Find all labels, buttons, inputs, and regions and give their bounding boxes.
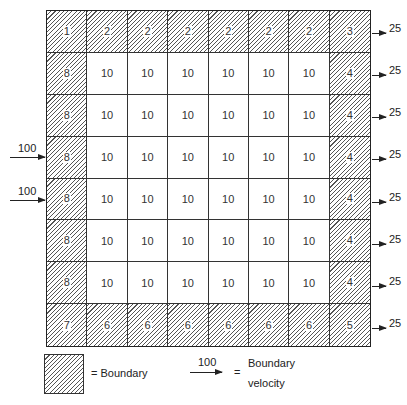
interior-cell: 10 [168, 220, 208, 262]
outflow-arrow-icon [372, 328, 386, 329]
cell-value: 10 [101, 67, 113, 79]
cell-value: 4 [346, 68, 354, 79]
interior-cell: 10 [128, 220, 168, 262]
boundary-cell: 8 [47, 220, 87, 262]
cell-value: 8 [63, 193, 71, 204]
cell-value: 10 [182, 277, 194, 289]
cell-value: 10 [101, 193, 113, 205]
interior-cell: 10 [289, 95, 329, 137]
cell-value: 4 [346, 235, 354, 246]
cell-value: 10 [101, 235, 113, 247]
interior-cell: 10 [128, 262, 168, 304]
cell-value: 2 [224, 26, 232, 37]
interior-cell: 10 [249, 53, 289, 95]
cell-value: 10 [222, 151, 234, 163]
cell-value: 7 [63, 320, 71, 331]
cell-value: 10 [141, 277, 153, 289]
interior-cell: 10 [249, 220, 289, 262]
cell-value: 10 [141, 151, 153, 163]
inflow-velocity-label: 100 [18, 142, 36, 154]
interior-cell: 10 [168, 95, 208, 137]
interior-cell: 10 [289, 179, 329, 221]
cell-value: 2 [305, 26, 313, 37]
cell-value: 10 [222, 193, 234, 205]
boundary-cell: 6 [289, 304, 329, 346]
outflow-velocity-label: 25 [389, 191, 401, 203]
interior-cell: 10 [87, 95, 127, 137]
cell-value: 8 [63, 68, 71, 79]
interior-cell: 10 [87, 137, 127, 179]
cell-value: 4 [346, 152, 354, 163]
interior-cell: 10 [87, 179, 127, 221]
cell-value: 10 [141, 109, 153, 121]
boundary-cell: 6 [87, 304, 127, 346]
cell-value: 10 [101, 277, 113, 289]
cell-value: 10 [141, 235, 153, 247]
interior-cell: 10 [128, 179, 168, 221]
interior-cell: 10 [168, 137, 208, 179]
cell-value: 10 [222, 235, 234, 247]
outflow-velocity-label: 25 [389, 64, 401, 76]
cell-value: 10 [262, 193, 274, 205]
boundary-cell: 2 [87, 11, 127, 53]
inflow-arrow-icon [10, 200, 45, 201]
boundary-grid: 1222222381010101010104810101010101048101… [46, 10, 371, 347]
interior-cell: 10 [209, 220, 249, 262]
boundary-cell: 8 [47, 262, 87, 304]
cell-value: 6 [224, 320, 232, 331]
boundary-cell: 1 [47, 11, 87, 53]
outflow-arrow-icon [372, 244, 386, 245]
boundary-cell: 3 [330, 11, 370, 53]
boundary-cell: 2 [128, 11, 168, 53]
cell-value: 8 [63, 110, 71, 121]
outflow-velocity-label: 25 [389, 148, 401, 160]
interior-cell: 10 [128, 95, 168, 137]
boundary-cell: 4 [330, 179, 370, 221]
legend-hatch-swatch [44, 354, 84, 394]
outflow-arrow-icon [372, 75, 386, 76]
legend-velocity-label-2: velocity [248, 377, 285, 389]
outflow-arrow-icon [372, 202, 386, 203]
interior-cell: 10 [87, 262, 127, 304]
interior-cell: 10 [128, 53, 168, 95]
legend-arrow-icon [190, 372, 222, 373]
interior-cell: 10 [289, 53, 329, 95]
cell-value: 3 [346, 26, 354, 37]
outflow-velocity-label: 25 [389, 317, 401, 329]
interior-cell: 10 [87, 53, 127, 95]
interior-cell: 10 [209, 53, 249, 95]
boundary-cell: 4 [330, 220, 370, 262]
cell-value: 10 [262, 235, 274, 247]
cell-value: 10 [303, 235, 315, 247]
cell-value: 5 [346, 320, 354, 331]
interior-cell: 10 [249, 137, 289, 179]
cell-value: 10 [101, 151, 113, 163]
boundary-cell: 2 [209, 11, 249, 53]
cell-value: 10 [182, 67, 194, 79]
cell-value: 10 [141, 67, 153, 79]
interior-cell: 10 [209, 137, 249, 179]
boundary-cell: 8 [47, 53, 87, 95]
cell-value: 6 [143, 320, 151, 331]
boundary-cell: 4 [330, 95, 370, 137]
interior-cell: 10 [289, 262, 329, 304]
cell-value: 10 [222, 277, 234, 289]
cell-value: 4 [346, 277, 354, 288]
cell-value: 6 [103, 320, 111, 331]
interior-cell: 10 [209, 179, 249, 221]
boundary-cell: 8 [47, 179, 87, 221]
outflow-arrow-icon [372, 159, 386, 160]
inflow-arrow-icon [10, 157, 45, 158]
legend-boundary-label: = Boundary [91, 367, 148, 379]
outflow-arrow-icon [372, 117, 386, 118]
boundary-cell: 4 [330, 137, 370, 179]
boundary-cell: 8 [47, 95, 87, 137]
interior-cell: 10 [168, 262, 208, 304]
legend-velocity-label-1: Boundary [248, 357, 295, 369]
cell-value: 8 [63, 235, 71, 246]
cell-value: 10 [141, 193, 153, 205]
boundary-cell: 6 [168, 304, 208, 346]
boundary-cell: 4 [330, 262, 370, 304]
cell-value: 1 [63, 26, 71, 37]
cell-value: 2 [265, 26, 273, 37]
